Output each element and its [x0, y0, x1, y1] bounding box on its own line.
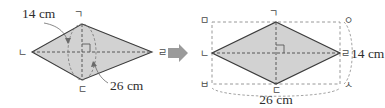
right-vertex-right-label: ㄹ	[341, 48, 350, 59]
right-vertex-left-label: ㄴ	[200, 48, 209, 59]
right-figure-group: ㅁ ㅇ ㅂ ㅅ ㄱ ㄴ ㄷ ㄹ 14 cm 26 cm	[200, 8, 385, 107]
left-dimension-vertical: 14 cm	[22, 6, 56, 21]
left-vertex-top-label: ㄱ	[74, 9, 83, 20]
right-corner-bottom-left-label: ㅂ	[200, 79, 209, 90]
left-vertex-left-label: ㄴ	[18, 47, 27, 58]
right-dimension-height: 14 cm	[351, 46, 385, 61]
right-dimension-width: 26 cm	[259, 92, 293, 107]
left-figure-group: ㄱ ㄴ ㄷ ㄹ 14 cm 26 cm	[18, 6, 167, 95]
left-dimension-horizontal: 26 cm	[110, 78, 144, 93]
right-vertex-top-label: ㄱ	[269, 8, 278, 19]
left-vertex-right-label: ㄹ	[158, 47, 167, 58]
left-vertex-bottom-label: ㄷ	[78, 84, 87, 95]
right-corner-bottom-right-label: ㅅ	[344, 79, 353, 90]
figure-svg: ㄱ ㄴ ㄷ ㄹ 14 cm 26 cm	[0, 0, 385, 108]
transform-arrow-icon	[168, 44, 188, 62]
diagram-canvas: ㄱ ㄴ ㄷ ㄹ 14 cm 26 cm	[0, 0, 385, 108]
right-corner-top-left-label: ㅁ	[200, 15, 209, 26]
right-corner-top-right-label: ㅇ	[344, 15, 353, 26]
